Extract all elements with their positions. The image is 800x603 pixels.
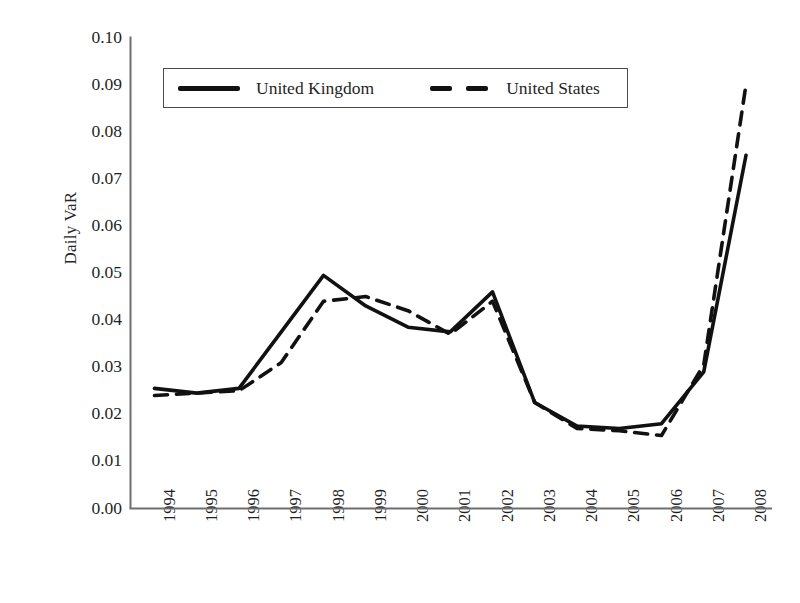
chart-container: Daily VaR 0.100.090.080.070.060.050.040.… xyxy=(0,0,800,603)
plot-area xyxy=(0,0,800,603)
